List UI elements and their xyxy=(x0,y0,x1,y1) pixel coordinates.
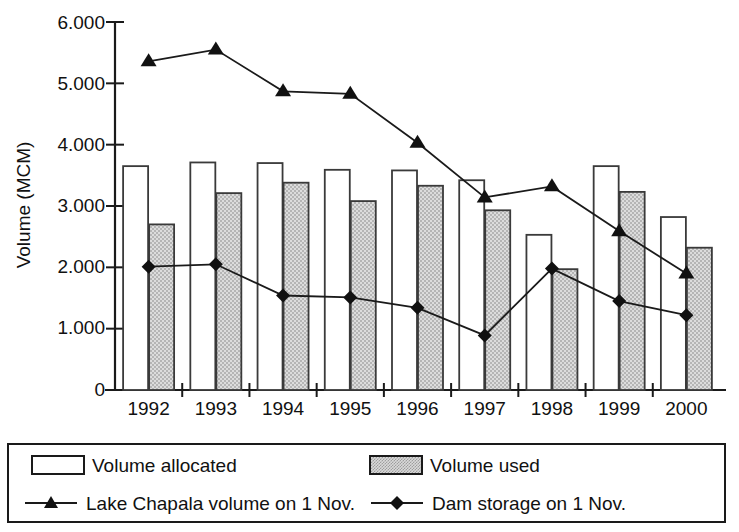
marker-triangle xyxy=(208,42,224,55)
legend-label: Volume allocated xyxy=(92,456,237,475)
y-tick-label: 1.000 xyxy=(57,317,105,338)
y-axis-title: Volume (MCM) xyxy=(13,142,34,269)
triangle-line-swatch-icon xyxy=(23,493,79,513)
legend-row-bars: Volume allocated Volume used xyxy=(9,445,724,485)
bar-volume-used xyxy=(284,183,309,390)
x-tick-label: 1997 xyxy=(464,398,506,419)
bar-volume-allocated xyxy=(459,180,484,390)
bar-volume-allocated xyxy=(258,163,283,390)
bar-volume-used xyxy=(687,248,712,390)
bar-volume-used xyxy=(418,186,443,390)
bar-volume-allocated xyxy=(123,166,148,390)
bar-volume-used xyxy=(620,192,645,390)
marker-triangle xyxy=(410,135,426,148)
marker-triangle xyxy=(544,178,560,191)
x-tick-label: 1999 xyxy=(598,398,640,419)
y-tick-label: 3.000 xyxy=(57,195,105,216)
chart-figure: Volume (MCM) 6.000 5.000 4.000 3.000 2.0… xyxy=(0,0,739,436)
legend-item-dam-storage[interactable]: Dam storage on 1 Nov. xyxy=(369,493,626,513)
y-tick-label: 0 xyxy=(94,379,105,400)
x-tick-label: 1998 xyxy=(531,398,573,419)
y-tick-label: 4.000 xyxy=(57,134,105,155)
legend-item-volume-allocated[interactable]: Volume allocated xyxy=(31,455,237,475)
legend-item-volume-used[interactable]: Volume used xyxy=(369,455,540,475)
marker-triangle xyxy=(342,86,358,99)
bar-volume-used xyxy=(485,210,510,390)
bar-volume-allocated xyxy=(392,170,417,390)
bar-volume-allocated xyxy=(594,166,619,390)
y-tick-label: 2.000 xyxy=(57,256,105,277)
bar-volume-used xyxy=(552,269,577,390)
chart-legend: Volume allocated Volume used Lake Chapal… xyxy=(7,443,726,523)
white-bar-swatch-icon xyxy=(31,455,85,475)
bar-volume-allocated xyxy=(526,235,551,390)
legend-item-lake-chapala[interactable]: Lake Chapala volume on 1 Nov. xyxy=(23,493,355,513)
x-tick-label: 2000 xyxy=(665,398,707,419)
x-axis-tick-labels: 199219931994199519961997199819992000 xyxy=(127,398,707,419)
bar-volume-allocated xyxy=(325,170,350,390)
bar-volume-allocated xyxy=(190,162,215,390)
legend-label: Lake Chapala volume on 1 Nov. xyxy=(86,494,355,513)
legend-label: Volume used xyxy=(430,456,540,475)
x-tick-label: 1992 xyxy=(127,398,169,419)
marker-triangle xyxy=(275,83,291,96)
x-tick-label: 1994 xyxy=(262,398,305,419)
bar-volume-allocated xyxy=(661,217,686,390)
x-tick-label: 1996 xyxy=(396,398,438,419)
legend-row-lines: Lake Chapala volume on 1 Nov. Dam storag… xyxy=(9,483,724,523)
chart-page: Volume (MCM) 6.000 5.000 4.000 3.000 2.0… xyxy=(0,0,739,532)
diamond-line-swatch-icon xyxy=(369,493,425,513)
plot-area xyxy=(105,22,726,397)
legend-label: Dam storage on 1 Nov. xyxy=(432,494,626,513)
chart-canvas: Volume (MCM) 6.000 5.000 4.000 3.000 2.0… xyxy=(0,0,739,436)
bar-volume-used xyxy=(216,193,241,390)
y-axis-tick-labels: 6.000 5.000 4.000 3.000 2.000 1.000 0 xyxy=(57,12,105,400)
y-tick-label: 5.000 xyxy=(57,73,105,94)
bar-volume-used xyxy=(149,224,174,390)
x-tick-label: 1995 xyxy=(329,398,371,419)
x-tick-label: 1993 xyxy=(195,398,237,419)
gray-bar-swatch-icon xyxy=(369,455,423,475)
y-tick-label: 6.000 xyxy=(57,12,105,33)
